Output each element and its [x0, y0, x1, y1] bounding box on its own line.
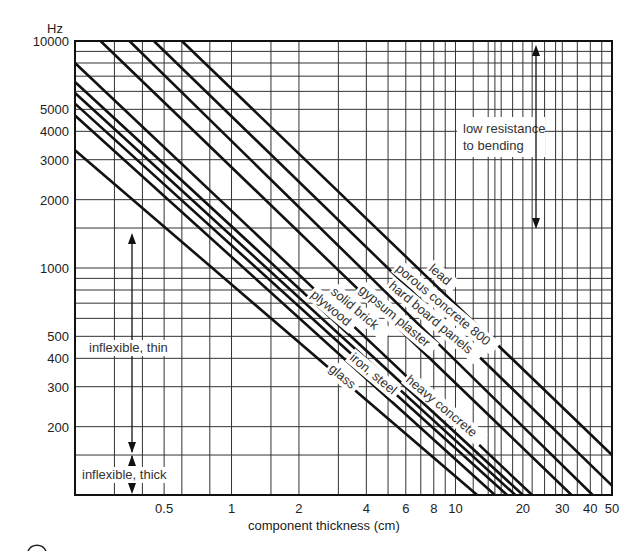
x-tick-label: 10 — [448, 501, 462, 516]
label-heavy-concrete: heavy concrete — [403, 372, 480, 440]
arrow-down-icon — [532, 218, 540, 229]
x-tick-label: 6 — [402, 501, 409, 516]
y-tick-label: 1000 — [40, 261, 69, 276]
figure-marker-icon — [28, 545, 46, 551]
arrow-down-icon — [128, 483, 136, 494]
x-tick-label: 20 — [516, 501, 530, 516]
y-tick-label: 300 — [47, 380, 69, 395]
y-tick-label: 500 — [47, 329, 69, 344]
arrow-up-icon — [128, 455, 136, 466]
grid — [75, 41, 612, 495]
line-solid-brick — [75, 93, 515, 495]
inflexible-thin-label: inflexible, thin — [89, 340, 168, 355]
x-tick-label: 2 — [295, 501, 302, 516]
inflexible-thick-label: inflexible, thick — [82, 467, 167, 482]
y-tick-label: 5000 — [40, 102, 69, 117]
y-tick-label: 4000 — [40, 124, 69, 139]
coincidence-frequency-chart: 1000050004000300020001000500400300200 0.… — [0, 0, 643, 551]
y-tick-label: 10000 — [33, 34, 69, 49]
line-extra-1 — [154, 41, 612, 486]
arrow-up-icon — [532, 45, 540, 56]
x-tick-label: 4 — [363, 501, 370, 516]
x-tick-label: 0.5 — [155, 501, 173, 516]
x-tick-label: 40 — [583, 501, 597, 516]
y-axis-unit: Hz — [47, 21, 63, 36]
y-tick-label: 3000 — [40, 153, 69, 168]
x-tick-label: 1 — [228, 501, 235, 516]
x-tick-label: 50 — [605, 501, 619, 516]
arrow-up-icon — [128, 233, 136, 244]
y-tick-label: 400 — [47, 351, 69, 366]
material-labels: lead porous concrete 800 hard board pane… — [306, 260, 501, 448]
x-axis-ticks: 0.5124681020304050 — [155, 501, 619, 516]
y-axis-ticks: 1000050004000300020001000500400300200 — [33, 34, 69, 435]
low-resistance-label-2: to bending — [463, 138, 524, 153]
y-tick-label: 200 — [47, 420, 69, 435]
x-tick-label: 8 — [430, 501, 437, 516]
x-axis-title: component thickness (cm) — [248, 518, 400, 533]
x-tick-label: 30 — [555, 501, 569, 516]
arrow-down-icon — [128, 442, 136, 453]
low-resistance-label: low resistance — [463, 121, 545, 136]
y-tick-label: 2000 — [40, 193, 69, 208]
